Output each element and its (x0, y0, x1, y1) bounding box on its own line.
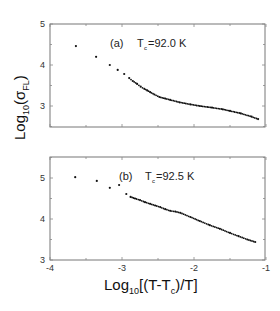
data-point (74, 176, 76, 178)
data-point (161, 207, 163, 209)
data-point (250, 240, 252, 242)
data-point (223, 109, 225, 111)
data-point (231, 110, 233, 112)
data-point (221, 229, 223, 231)
data-point (156, 205, 158, 207)
data-point (178, 212, 180, 214)
data-point (138, 84, 140, 86)
data-point (177, 101, 179, 103)
data-point (197, 105, 199, 107)
panel-b-tc-sub: c (152, 178, 155, 184)
data-point (251, 240, 253, 242)
data-point (224, 230, 226, 232)
svg-text:Log10[(T-Tc)/T]: Log10[(T-Tc)/T] (104, 276, 198, 296)
data-point (222, 229, 224, 231)
data-point (75, 45, 77, 47)
data-point (151, 204, 153, 206)
data-point (234, 111, 236, 113)
data-point (141, 200, 143, 202)
x-axis-label: Log10[(T-Tc)/T] (104, 276, 198, 296)
data-point (211, 225, 213, 227)
data-point (96, 180, 98, 182)
data-point (208, 106, 210, 108)
x-tick-label: -1 (262, 263, 270, 273)
panel-a-data-points (75, 45, 259, 120)
data-point (206, 223, 208, 225)
data-point (168, 99, 170, 101)
data-point (181, 213, 183, 215)
data-point (163, 208, 165, 210)
y-axis-label: Log10(σFL) (11, 75, 31, 140)
panel-a-tc-sub: c (144, 45, 147, 51)
data-point (174, 211, 176, 213)
data-point (219, 228, 221, 230)
data-point (256, 118, 258, 120)
data-point (166, 209, 168, 211)
data-point (196, 105, 198, 107)
data-point (183, 213, 185, 215)
data-point (253, 241, 255, 243)
panel-b-tc-t: T (145, 170, 152, 182)
x-tick-labels: -4-3-2-1 (46, 263, 270, 273)
data-point (210, 107, 212, 109)
data-point (216, 227, 218, 229)
data-point (191, 104, 193, 106)
data-point (166, 98, 168, 100)
data-point (186, 103, 188, 105)
data-point (135, 82, 137, 84)
data-point (196, 219, 198, 221)
data-point (173, 210, 175, 212)
panel-b-data-points (74, 176, 256, 243)
data-point (164, 208, 166, 210)
data-point (207, 224, 209, 226)
data-point (213, 107, 215, 109)
data-point (197, 220, 199, 222)
data-point (153, 204, 155, 206)
data-point (143, 201, 145, 203)
data-point (179, 212, 181, 214)
data-point (148, 202, 150, 204)
data-point (109, 64, 111, 66)
data-point (254, 117, 256, 119)
data-point (228, 110, 230, 112)
data-point (109, 187, 111, 189)
data-point (217, 227, 219, 229)
data-point (185, 103, 187, 105)
data-point (243, 237, 245, 239)
data-point (95, 56, 97, 58)
data-point (158, 206, 160, 208)
data-point (180, 102, 182, 104)
data-point (145, 89, 147, 91)
data-point (149, 203, 151, 205)
y-tick-label: 5 (40, 173, 45, 183)
data-point (123, 73, 125, 75)
panel-b-label: (b) (119, 170, 132, 182)
data-point (216, 107, 218, 109)
data-point (174, 100, 176, 102)
panel-a-tc-value: =92.0 K (148, 37, 187, 49)
data-point (168, 209, 170, 211)
data-point (133, 197, 135, 199)
y-tick-label: 3 (40, 255, 45, 265)
panel-b-tc-value: =92.5 K (156, 170, 195, 182)
data-point (202, 106, 204, 108)
data-point (171, 99, 173, 101)
data-point (193, 217, 195, 219)
data-point (252, 116, 254, 118)
data-point (234, 234, 236, 236)
data-point (241, 113, 243, 115)
data-point (137, 199, 139, 201)
data-point (118, 184, 120, 186)
data-point (204, 222, 206, 224)
data-point (130, 79, 132, 81)
data-point (249, 115, 251, 117)
data-point (117, 69, 119, 71)
data-point (241, 237, 243, 239)
data-point (238, 235, 240, 237)
data-point (245, 114, 247, 116)
data-point (212, 226, 214, 228)
svg-text:Log10(σFL): Log10(σFL) (11, 75, 31, 140)
data-point (202, 222, 204, 224)
data-point (214, 226, 216, 228)
panel-a-ytick-labels: 345 (40, 19, 45, 111)
